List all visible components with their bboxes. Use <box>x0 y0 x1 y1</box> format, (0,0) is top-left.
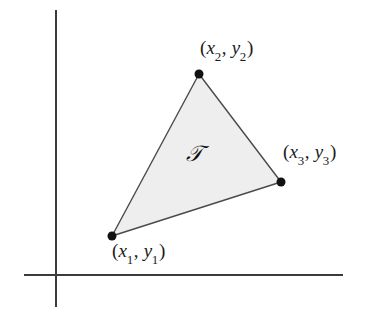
vertex-label-p3-x-subscript: 3 <box>298 153 305 168</box>
vertex-label-p1: (x1, y1) <box>112 241 166 265</box>
vertex-label-p2-comma: , <box>222 37 232 58</box>
vertex-label-p3: (x3, y3) <box>283 142 337 166</box>
vertex-label-p3-comma: , <box>305 141 315 162</box>
vertex-dot-p2 <box>195 70 204 79</box>
vertex-label-p3-close: ) <box>330 141 337 162</box>
vertex-label-p1-comma: , <box>134 240 144 261</box>
vertex-dot-p3 <box>277 178 286 187</box>
vertex-label-p2-close: ) <box>247 37 254 58</box>
region-label-t: 𝒯 <box>186 143 204 165</box>
vertex-label-p1-x-subscript: 1 <box>127 252 134 267</box>
vertex-label-p2-x-subscript: 2 <box>215 49 222 64</box>
vertex-label-p3-x: x <box>290 141 299 162</box>
vertex-label-p1-x: x <box>119 240 128 261</box>
vertex-label-p2-x: x <box>207 37 216 58</box>
figure-canvas: 𝒯 (x1, y1) (x2, y2) (x3, y3) <box>0 0 374 317</box>
vertex-label-p1-y-subscript: 1 <box>152 252 159 267</box>
vertex-label-p3-y-subscript: 3 <box>323 153 330 168</box>
vertex-label-p1-close: ) <box>159 240 166 261</box>
vertex-label-p2-y-subscript: 2 <box>240 49 247 64</box>
vertex-label-p2: (x2, y2) <box>200 38 254 62</box>
